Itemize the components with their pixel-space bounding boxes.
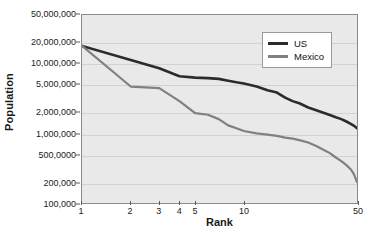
x-tick-mark [130, 201, 131, 205]
x-tick-mark [358, 201, 359, 205]
x-tick-label: 10 [239, 206, 249, 216]
legend-item-mexico[interactable]: Mexico [268, 50, 324, 63]
y-tick-label: 5,000,000 [36, 79, 76, 89]
x-axis-title: Rank [81, 216, 358, 228]
legend-label: US [294, 38, 307, 49]
y-axis-title-label: Population [3, 73, 15, 131]
legend: USMexico [262, 32, 332, 68]
y-tick-label: 2,000,000 [36, 107, 76, 117]
y-tick-label: 100,000 [43, 199, 76, 209]
x-tick-label: 4 [177, 206, 182, 216]
x-tick-mark [195, 201, 196, 205]
y-tick-label: 200,000 [43, 178, 76, 188]
y-tick-mark [76, 84, 80, 85]
y-tick-mark [76, 154, 80, 155]
x-tick-label: 3 [156, 206, 161, 216]
x-tick-mark [179, 201, 180, 205]
x-tick-mark [81, 201, 82, 205]
y-tick-label: 10,000,000 [31, 58, 76, 68]
x-tick-mark [244, 201, 245, 205]
legend-label: Mexico [294, 51, 324, 62]
y-tick-mark [76, 42, 80, 43]
legend-swatch-icon [268, 42, 288, 45]
population-rank-chart: Population 50,000,00020,000,00010,000,00… [0, 0, 373, 234]
legend-swatch-icon [268, 55, 288, 58]
y-axis-tick-labels: 50,000,00020,000,00010,000,0005,000,0002… [18, 0, 80, 234]
y-tick-label: 20,000,000 [31, 37, 76, 47]
x-tick-mark [159, 201, 160, 205]
y-tick-mark [76, 204, 80, 205]
y-tick-mark [76, 63, 80, 64]
y-tick-label: 1,000,000 [36, 129, 76, 139]
y-tick-mark [76, 14, 80, 15]
y-tick-mark [76, 112, 80, 113]
y-tick-mark [76, 182, 80, 183]
y-tick-label: 500,0000 [38, 150, 76, 160]
x-tick-label: 2 [128, 206, 133, 216]
y-tick-mark [76, 133, 80, 134]
x-tick-label: 5 [192, 206, 197, 216]
y-tick-label: 50,000,000 [31, 9, 76, 19]
y-axis-title: Population [0, 0, 18, 204]
x-tick-label: 1 [78, 206, 83, 216]
x-tick-label: 50 [353, 206, 363, 216]
legend-item-us[interactable]: US [268, 37, 324, 50]
